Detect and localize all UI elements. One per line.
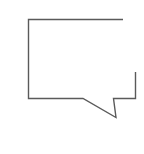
speech-bubble-icon (0, 0, 144, 154)
speech-bubble-canvas (0, 0, 144, 154)
